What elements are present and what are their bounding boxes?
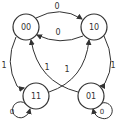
edge-label: 1 — [1, 61, 6, 70]
state-node-01: 01 — [78, 83, 104, 109]
edge-10-00: 0 — [37, 28, 83, 41]
state-node-10: 10 — [81, 14, 107, 40]
edge-label: 1 — [64, 65, 69, 74]
edge-10-01: 1 — [100, 36, 116, 86]
state-node-00: 00 — [13, 14, 39, 40]
state-node-11: 11 — [23, 83, 49, 109]
edge-label: 0 — [100, 108, 104, 116]
edge-00-10: 0 — [36, 2, 82, 19]
state-label: 10 — [89, 23, 99, 32]
edge-label: 0 — [54, 2, 59, 11]
state-diagram: 0 0 1 1 1 1 0 0 00 10 11 — [0, 0, 124, 127]
edge-label: 0 — [10, 108, 14, 116]
state-label: 00 — [21, 23, 31, 32]
edge-label: 1 — [110, 61, 115, 70]
edge-11-10: 1 — [49, 40, 89, 92]
state-label: 01 — [86, 92, 96, 101]
edge-label: 0 — [55, 28, 60, 37]
edge-00-11: 1 — [1, 37, 24, 88]
state-label: 11 — [31, 92, 41, 101]
edge-label: 1 — [44, 63, 49, 72]
